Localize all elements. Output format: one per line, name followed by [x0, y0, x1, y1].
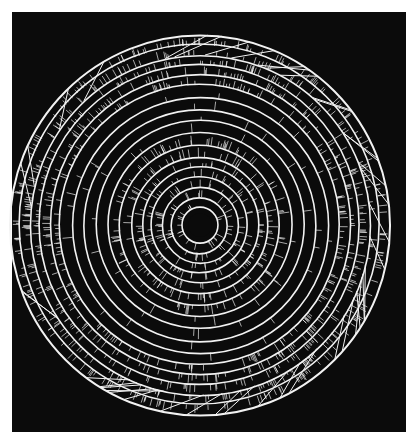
concentric-rings-artwork: [0, 0, 414, 448]
center-disc: [188, 213, 212, 237]
rings-group: [10, 35, 390, 415]
